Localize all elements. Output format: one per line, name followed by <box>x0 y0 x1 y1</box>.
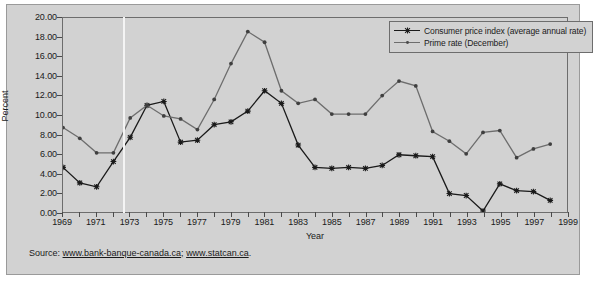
source-note: Source: www.bank-banque-canada.ca; www.s… <box>29 248 251 258</box>
data-point-marker <box>397 79 401 83</box>
x-tick-label: 1997 <box>524 217 544 227</box>
data-point-marker <box>364 112 368 116</box>
data-point-marker <box>179 117 183 121</box>
reference-line <box>123 17 125 213</box>
x-axis-tick-labels: 1969197119731975197719791981198319851987… <box>62 217 568 231</box>
chart-figure: 0.002.004.006.008.0010.0012.0014.0016.00… <box>6 4 580 275</box>
x-tick-label: 1973 <box>120 217 140 227</box>
data-point-marker <box>481 131 485 135</box>
y-axis-title: Percent <box>0 90 10 121</box>
x-axis-title: Year <box>62 231 568 241</box>
data-point-marker <box>145 103 149 107</box>
data-point-marker <box>413 153 419 159</box>
data-point-marker <box>95 151 99 155</box>
data-point-marker <box>312 165 318 171</box>
x-tick-label: 1989 <box>390 217 410 227</box>
y-axis-tick-marks <box>7 17 63 213</box>
data-point-marker <box>127 134 133 140</box>
data-point-marker <box>548 142 552 146</box>
data-point-marker <box>448 139 452 143</box>
data-point-marker <box>431 130 435 134</box>
data-point-marker <box>296 101 300 105</box>
data-point-marker <box>212 98 216 102</box>
data-point-marker <box>447 191 453 197</box>
data-point-marker <box>515 156 519 160</box>
data-point-marker <box>295 142 301 148</box>
data-point-marker <box>279 100 285 106</box>
x-marker-icon <box>404 27 411 34</box>
data-point-marker <box>313 98 317 102</box>
x-tick-label: 1985 <box>322 217 342 227</box>
data-point-marker <box>77 180 83 186</box>
data-point-marker <box>380 94 384 98</box>
data-point-marker <box>196 128 200 132</box>
data-point-marker <box>497 181 503 187</box>
data-point-marker <box>464 152 468 156</box>
data-point-marker <box>414 84 418 88</box>
data-point-marker <box>363 165 369 171</box>
x-tick-label: 1991 <box>423 217 443 227</box>
x-tick-label: 1995 <box>491 217 511 227</box>
source-prefix: Source: <box>29 248 63 258</box>
chart-legend: Consumer price index (average annual rat… <box>389 21 593 53</box>
legend-swatch-prime <box>394 37 420 49</box>
x-tick-label: 1971 <box>86 217 106 227</box>
data-point-marker <box>280 89 284 93</box>
data-point-marker <box>111 159 117 165</box>
data-point-marker <box>161 99 167 105</box>
data-point-marker <box>498 129 502 133</box>
source-suffix: . <box>249 248 252 258</box>
data-point-marker <box>128 116 132 120</box>
data-point-marker <box>396 152 402 158</box>
series-line-cpi <box>63 91 550 211</box>
data-point-marker <box>330 112 334 116</box>
data-point-marker <box>547 197 553 203</box>
data-point-marker <box>63 165 66 171</box>
x-tick-label: 1981 <box>255 217 275 227</box>
data-point-marker <box>94 184 100 190</box>
x-tick-label: 1977 <box>187 217 207 227</box>
legend-swatch-cpi <box>394 25 420 37</box>
source-link-bank-of-canada[interactable]: www.bank-banque-canada.ca <box>63 248 182 258</box>
legend-label-cpi: Consumer price index (average annual rat… <box>424 26 586 36</box>
data-point-marker <box>262 88 268 94</box>
x-tick-label: 1999 <box>558 217 578 227</box>
data-point-marker <box>228 119 234 125</box>
x-tick-label: 1969 <box>52 217 72 227</box>
source-link-statcan[interactable]: www.statcan.ca <box>186 248 249 258</box>
data-point-marker <box>246 30 250 34</box>
data-point-marker <box>195 137 201 143</box>
data-point-marker <box>211 122 217 128</box>
x-tick-label: 1975 <box>153 217 173 227</box>
data-point-marker <box>532 147 536 151</box>
x-tick-label: 1993 <box>457 217 477 227</box>
data-point-marker <box>245 108 251 114</box>
data-point-marker <box>379 163 385 169</box>
dot-marker-icon <box>404 39 411 46</box>
x-tick-label: 1983 <box>288 217 308 227</box>
x-tick-label: 1979 <box>221 217 241 227</box>
data-point-marker <box>329 165 335 171</box>
data-point-marker <box>162 114 166 118</box>
data-point-marker <box>531 189 537 195</box>
data-point-marker <box>78 136 82 140</box>
legend-item-prime: Prime rate (December) <box>394 37 586 49</box>
x-tick-label: 1987 <box>356 217 376 227</box>
data-point-marker <box>178 139 184 145</box>
data-point-marker <box>347 112 351 116</box>
data-point-marker <box>229 62 233 66</box>
data-point-marker <box>514 188 520 194</box>
legend-label-prime: Prime rate (December) <box>424 38 508 48</box>
data-point-marker <box>463 193 469 199</box>
data-point-marker <box>263 40 267 44</box>
data-point-marker <box>430 154 436 160</box>
data-point-marker <box>112 151 116 155</box>
legend-item-cpi: Consumer price index (average annual rat… <box>394 25 586 37</box>
data-point-marker <box>346 165 352 171</box>
